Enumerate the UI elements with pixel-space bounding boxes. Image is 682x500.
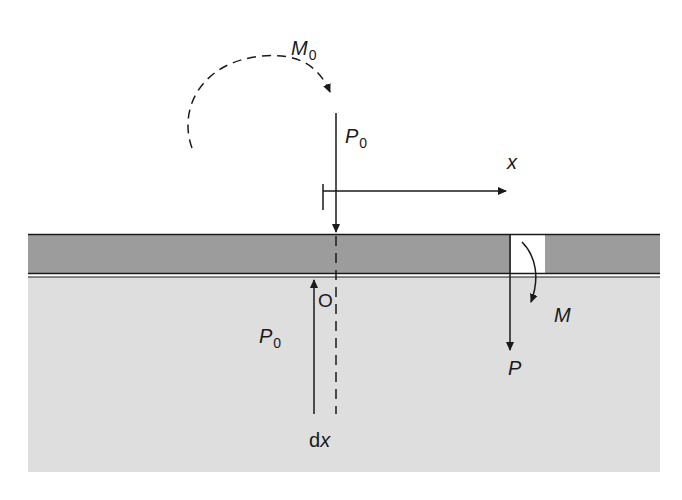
diagram-canvas: M0 P0 x O P0 dx M P: [0, 0, 682, 500]
applied-load-label: P0: [345, 126, 367, 146]
beam-section-gap: [511, 235, 545, 273]
applied-moment-label: M0: [291, 38, 316, 58]
section-shear-label: P: [508, 358, 521, 378]
element-width-label: dx: [309, 430, 330, 450]
x-axis-label: x: [507, 152, 517, 172]
beam: [28, 234, 660, 274]
origin-label: O: [318, 291, 333, 310]
beam-diagram-svg: [0, 0, 682, 500]
section-moment-label: M: [554, 305, 571, 325]
applied-moment-arrow-icon: [188, 56, 330, 148]
reaction-load-label: P0: [259, 326, 281, 346]
